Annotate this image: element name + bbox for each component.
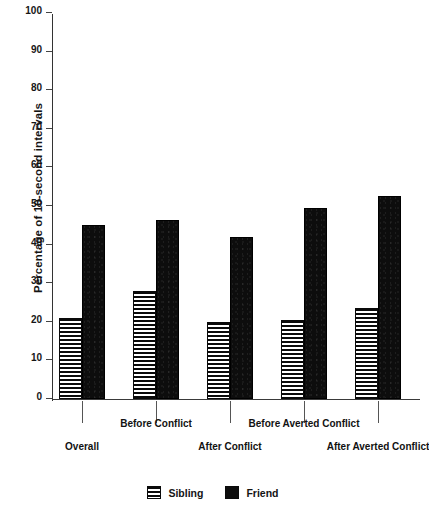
x-axis-label-before-conflict: Before Conflict bbox=[120, 418, 192, 429]
bar-sibling-before-conflict bbox=[133, 291, 156, 399]
bar-sibling-after-averted-conflict bbox=[355, 308, 378, 399]
y-tick-90: 90 bbox=[46, 51, 52, 52]
y-tick-80: 80 bbox=[46, 89, 52, 90]
y-tick-label-60: 60 bbox=[31, 159, 42, 170]
legend-item-sibling: Sibling bbox=[147, 486, 203, 499]
y-tick-label-20: 20 bbox=[31, 314, 42, 325]
y-axis-line bbox=[52, 14, 53, 401]
y-tick-60: 60 bbox=[46, 166, 52, 167]
striped-swatch-icon bbox=[147, 486, 161, 499]
bar-friend-before-conflict bbox=[156, 220, 179, 399]
y-tick-label-50: 50 bbox=[31, 198, 42, 209]
y-tick-100: 100 bbox=[46, 12, 52, 13]
solid-swatch-icon bbox=[225, 486, 239, 499]
x-axis-label-after-averted-conflict: After Averted Conflict bbox=[327, 441, 429, 452]
bar-friend-after-averted-conflict bbox=[378, 196, 401, 399]
x-axis-label-after-conflict: After Conflict bbox=[198, 441, 261, 452]
y-tick-0: 0 bbox=[46, 398, 52, 399]
y-tick-20: 20 bbox=[46, 321, 52, 322]
y-tick-10: 10 bbox=[46, 359, 52, 360]
y-tick-label-70: 70 bbox=[31, 121, 42, 132]
bar-sibling-before-averted-conflict bbox=[281, 320, 304, 399]
bar-friend-overall bbox=[82, 225, 105, 399]
legend-item-friend: Friend bbox=[225, 486, 278, 499]
bar-sibling-overall bbox=[59, 318, 82, 399]
x-axis-line bbox=[52, 399, 420, 400]
y-tick-50: 50 bbox=[46, 205, 52, 206]
plot-area: 0102030405060708090100 bbox=[52, 14, 420, 400]
y-tick-70: 70 bbox=[46, 128, 52, 129]
x-tick-after-conflict bbox=[230, 401, 231, 423]
legend-label-friend: Friend bbox=[246, 487, 278, 499]
y-tick-label-40: 40 bbox=[31, 237, 42, 248]
x-axis-label-before-averted-conflict: Before Averted Conflict bbox=[249, 418, 360, 429]
x-tick-overall bbox=[82, 401, 83, 423]
x-axis-label-overall: Overall bbox=[65, 441, 99, 452]
y-tick-30: 30 bbox=[46, 282, 52, 283]
bar-sibling-after-conflict bbox=[207, 322, 230, 399]
y-tick-label-10: 10 bbox=[31, 352, 42, 363]
y-tick-label-30: 30 bbox=[31, 275, 42, 286]
y-tick-40: 40 bbox=[46, 244, 52, 245]
chart-legend: Sibling Friend bbox=[0, 486, 426, 499]
x-tick-after-averted-conflict bbox=[378, 401, 379, 423]
bar-friend-before-averted-conflict bbox=[304, 208, 327, 399]
y-tick-label-90: 90 bbox=[31, 44, 42, 55]
bar-friend-after-conflict bbox=[230, 237, 253, 399]
legend-label-sibling: Sibling bbox=[168, 487, 203, 499]
y-tick-label-100: 100 bbox=[25, 5, 42, 16]
y-tick-label-80: 80 bbox=[31, 82, 42, 93]
y-tick-label-0: 0 bbox=[36, 391, 42, 402]
